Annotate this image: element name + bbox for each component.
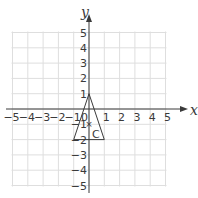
y-tick-label: 4 <box>80 42 87 55</box>
y-tick-label: −5 <box>71 180 87 193</box>
y-tick-label: 2 <box>80 72 87 85</box>
x-tick-label: −3 <box>34 111 50 124</box>
coordinate-plane: xy −5−4−3−2−11234554321−1−2−3−4−50 ×C <box>0 0 198 198</box>
y-tick-label: −3 <box>71 149 87 162</box>
point-label: C <box>92 128 100 141</box>
y-tick-label: 5 <box>80 27 87 40</box>
y-tick-label: 1 <box>80 88 87 101</box>
y-tick-label: 3 <box>80 57 87 70</box>
x-tick-label: 4 <box>149 111 156 124</box>
x-axis-label: x <box>190 102 198 118</box>
x-tick-label: 2 <box>118 111 125 124</box>
y-axis-label: y <box>80 4 90 20</box>
x-tick-label: −5 <box>3 111 19 124</box>
x-tick-label: 3 <box>133 111 140 124</box>
y-tick-label: −4 <box>71 164 87 177</box>
x-axis-arrow-icon <box>180 106 188 112</box>
x-tick-label: −4 <box>19 111 35 124</box>
x-tick-label: −2 <box>49 111 65 124</box>
x-tick-label: 1 <box>103 111 110 124</box>
x-tick-label: 5 <box>164 111 171 124</box>
